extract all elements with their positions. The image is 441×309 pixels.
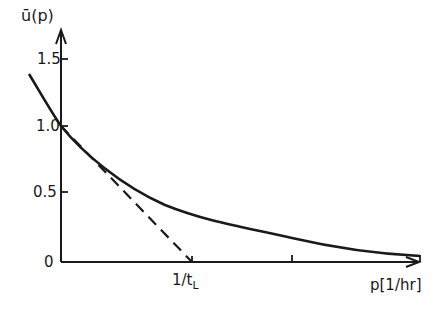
x-tick-label-main: 1/t [172, 271, 192, 289]
x-tick-label-sub: L [192, 279, 198, 292]
y-tick-label-1-5: 1.5 [37, 50, 61, 68]
chart [0, 0, 441, 309]
x-axis-label: p[1/hr] [370, 276, 422, 294]
solid-curve [29, 74, 420, 256]
y-axis-label: ū(p) [21, 6, 54, 25]
x-tick-label-1-tL: 1/tL [172, 271, 199, 292]
y-tick-label-0: 0 [44, 253, 54, 271]
y-tick-label-1-0: 1.0 [36, 117, 60, 135]
y-tick-label-0-5: 0.5 [33, 183, 57, 201]
dashed-tangent-line [61, 126, 192, 262]
